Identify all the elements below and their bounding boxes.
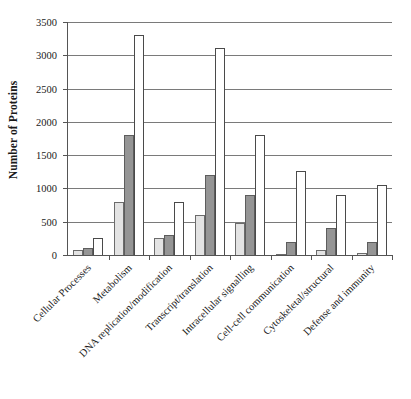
bar[interactable] [245,195,255,255]
bar-chart: Number of Proteins 050010001500200025003… [0,0,411,399]
x-axis-tick-label: Cell-cell communication [214,262,295,343]
bar-group [230,22,271,255]
y-axis-tick-label: 2000 [36,116,57,127]
bar[interactable] [73,250,83,255]
x-axis-tickmark [311,255,312,260]
bar[interactable] [134,35,144,255]
y-axis-title: Number of Proteins [0,0,26,260]
bar[interactable] [276,254,286,255]
bar[interactable] [154,238,164,255]
bar[interactable] [83,248,93,255]
x-axis-tick-label: Metabolism [90,262,133,305]
y-axis-tick-label: 3500 [36,17,57,28]
x-axis-tickmark [149,255,150,260]
y-axis-tick-label: 0 [52,250,57,261]
bar[interactable] [235,223,245,255]
bar-group [68,22,109,255]
bar[interactable] [164,235,174,255]
bar[interactable] [174,202,184,255]
y-axis-tick-label: 500 [41,216,57,227]
plot-area [67,22,392,256]
bar-group [149,22,190,255]
bar[interactable] [296,171,306,255]
y-axis-title-text: Number of Proteins [7,81,19,179]
x-axis-tick-label: Cytoskeletal/structural [261,262,336,337]
x-axis-tickmark [109,255,110,260]
bar[interactable] [316,250,326,255]
bar[interactable] [255,135,265,255]
bar[interactable] [286,242,296,255]
bar-group [109,22,150,255]
bar-group [311,22,352,255]
y-axis-tick-label: 1500 [36,150,57,161]
bar[interactable] [205,175,215,255]
bar[interactable] [215,48,225,255]
bar-group [352,22,393,255]
bar[interactable] [326,228,336,255]
bar[interactable] [124,135,134,255]
x-axis-tickmark [230,255,231,260]
x-axis-tick-label: Intracellular signalling [180,262,255,337]
bar-group [271,22,312,255]
bar-group [190,22,231,255]
bar[interactable] [336,195,346,255]
bar[interactable] [377,185,387,255]
y-axis-tick-label: 1000 [36,183,57,194]
x-axis-tick-label: Defense and immunity [301,262,376,337]
x-axis-tickmark [271,255,272,260]
y-axis-tickmark [63,255,68,256]
bar[interactable] [367,242,377,255]
bar[interactable] [195,215,205,255]
x-axis-tickmark [392,255,393,260]
x-axis-tick-label: Cellular Processes [31,262,93,324]
bar[interactable] [93,238,103,255]
x-axis-tickmark [190,255,191,260]
bar[interactable] [357,253,367,255]
y-axis-tick-label: 2500 [36,83,57,94]
x-axis-tickmark [352,255,353,260]
bar[interactable] [114,202,124,255]
y-axis-tick-labels: 0500100015002000250030003500 [26,22,62,255]
y-axis-tick-label: 3000 [36,50,57,61]
